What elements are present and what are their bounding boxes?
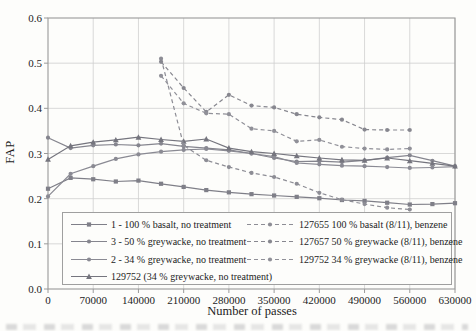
data-point-marker — [159, 150, 163, 154]
data-point-marker — [430, 165, 434, 169]
legend-sample-line — [71, 235, 107, 248]
legend-sample-line — [71, 253, 107, 266]
data-point-marker — [317, 191, 321, 195]
fap-line-chart-figure: FAP Number of passes 0700001400002100002… — [0, 0, 476, 331]
data-point-marker — [385, 201, 389, 205]
data-point-marker — [408, 128, 412, 132]
legend-label: 1 - 100 % basalt, no treatment — [111, 217, 231, 232]
data-point-marker — [227, 112, 231, 116]
data-point-marker — [159, 60, 163, 64]
series-line — [161, 62, 410, 130]
data-point-marker — [362, 146, 366, 150]
series-line — [48, 178, 455, 205]
legend-label: 127655 100 % basalt (8/11), benzene — [299, 217, 447, 232]
data-point-marker — [340, 197, 344, 201]
data-point-marker — [430, 202, 434, 206]
data-point-marker — [182, 185, 186, 189]
y-tick-label: 0.5 — [4, 57, 42, 69]
legend-sample-marker — [268, 222, 272, 226]
data-point-marker — [182, 143, 186, 147]
data-point-marker — [272, 175, 276, 179]
data-point-marker — [385, 128, 389, 132]
data-point-marker — [408, 202, 412, 206]
data-point-marker — [136, 179, 140, 183]
data-point-marker — [317, 196, 321, 200]
data-point-marker — [182, 86, 186, 90]
legend-label: 129752 (34 % greywacke, no treatment) — [111, 269, 272, 284]
data-point-marker — [317, 162, 321, 166]
x-tick-label: 420000 — [303, 294, 336, 306]
data-point-marker — [453, 201, 457, 205]
data-point-marker — [362, 164, 366, 168]
series-line — [161, 59, 410, 210]
data-point-marker — [317, 138, 321, 142]
data-point-marker — [46, 194, 50, 198]
data-point-marker — [317, 115, 321, 119]
data-point-marker — [114, 142, 118, 146]
legend-sample-marker — [87, 257, 91, 261]
data-point-marker — [114, 179, 118, 183]
legend-sample-marker — [87, 222, 91, 226]
data-point-marker — [227, 165, 231, 169]
x-tick-label: 70000 — [79, 294, 107, 306]
data-point-marker — [91, 164, 95, 168]
data-point-marker — [408, 146, 412, 150]
legend-label: 3 - 50 % greywacke, no treatment — [111, 234, 246, 249]
data-point-marker — [204, 188, 208, 192]
y-tick-label: 0.3 — [4, 148, 42, 160]
data-point-marker — [159, 74, 163, 78]
legend-sample-line — [71, 270, 107, 283]
data-point-marker — [385, 165, 389, 169]
data-point-marker — [46, 187, 50, 191]
data-point-marker — [45, 156, 51, 161]
legend-label: 127657 50 % greywacke (8/11), benzene — [299, 234, 462, 249]
data-point-marker — [249, 192, 253, 196]
legend-sample-line — [247, 253, 293, 266]
data-point-marker — [249, 104, 253, 108]
legend-sample-line — [247, 218, 293, 231]
data-point-marker — [295, 161, 299, 165]
x-tick-label: 560000 — [393, 294, 426, 306]
data-point-marker — [340, 118, 344, 122]
data-point-marker — [159, 141, 163, 145]
data-point-marker — [204, 111, 208, 115]
x-tick-label: 210000 — [167, 294, 200, 306]
chart-legend: 1 - 100 % basalt, no treatment3 - 50 % g… — [62, 212, 452, 285]
y-tick-label: 0.0 — [4, 283, 42, 295]
data-point-marker — [272, 105, 276, 109]
data-point-marker — [91, 177, 95, 181]
legend-label: 2 - 34 % greywacke, no treatment — [111, 252, 246, 267]
cropped-caption-text — [6, 324, 468, 330]
legend-sample-marker — [268, 240, 272, 244]
x-tick-label: 350000 — [258, 294, 291, 306]
data-point-marker — [272, 193, 276, 197]
data-point-marker — [408, 166, 412, 170]
data-point-marker — [136, 152, 140, 156]
data-point-marker — [385, 206, 389, 210]
x-tick-label: 280000 — [212, 294, 245, 306]
data-point-marker — [385, 147, 389, 151]
series-1-100-basalt-no-treatment — [46, 176, 457, 207]
y-tick-label: 0.4 — [4, 102, 42, 114]
data-point-marker — [408, 153, 412, 157]
data-point-marker — [249, 127, 253, 131]
data-point-marker — [408, 207, 412, 211]
y-tick-label: 0.6 — [4, 12, 42, 24]
data-point-marker — [69, 172, 73, 176]
y-tick-label: 0.2 — [4, 193, 42, 205]
data-point-marker — [295, 139, 299, 143]
data-point-marker — [340, 145, 344, 149]
data-point-marker — [159, 182, 163, 186]
data-point-marker — [69, 176, 73, 180]
data-point-marker — [227, 93, 231, 97]
data-point-marker — [136, 143, 140, 147]
data-point-marker — [227, 190, 231, 194]
data-point-marker — [182, 101, 186, 105]
series-127657-50-greywacke-8-11-benzene — [159, 60, 412, 132]
data-point-marker — [272, 129, 276, 133]
data-point-marker — [362, 127, 366, 131]
data-point-marker — [295, 195, 299, 199]
legend-sample-marker — [87, 240, 91, 244]
x-tick-label: 490000 — [348, 294, 381, 306]
legend-label: 129752 34 % greywacke (8/11), benzene — [299, 252, 462, 267]
